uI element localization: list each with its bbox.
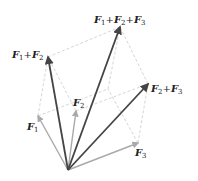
- guide-lines: [38, 27, 148, 143]
- vector-diagram: F1+F2+F3 F1+F2 F2+F3 F2 F1 F3 F1 F2 F3 F…: [0, 0, 198, 181]
- label-f1: F1: [26, 121, 39, 134]
- component-vectors: [38, 111, 138, 170]
- label-f1-plus-f2: F1+F2: [11, 49, 44, 62]
- guide-f1f3-to-sum: [108, 27, 120, 89]
- guide-f3-to-f1f3: [108, 89, 138, 143]
- guide-f1f2-to-sum: [48, 27, 120, 57]
- resultant-vectors: [48, 27, 148, 170]
- guide-f2f3-to-sum: [120, 27, 148, 84]
- label-f1-plus-f2-plus-f3: F1+F2+F3: [93, 14, 146, 27]
- vector-f3: [68, 143, 138, 170]
- label-f3: F3: [134, 147, 147, 160]
- label-f2-plus-f3: F2+F3: [150, 83, 183, 96]
- guide-f1-to-f1f2: [38, 57, 48, 116]
